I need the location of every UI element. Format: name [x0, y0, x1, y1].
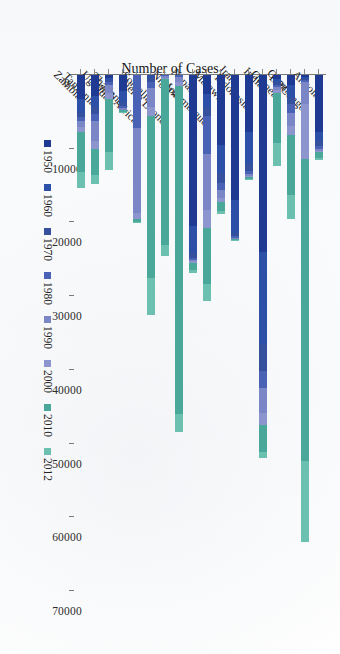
- bar-stack: [161, 75, 170, 256]
- x-tick: [69, 590, 74, 591]
- category-tick: [122, 69, 123, 74]
- category-tick: [80, 69, 81, 74]
- legend-label: 1960: [42, 194, 54, 217]
- bar-segment: [77, 99, 86, 112]
- category-tick: [206, 69, 207, 74]
- bar-segment: [315, 132, 324, 141]
- legend-label: 2000: [42, 370, 54, 393]
- x-tick: [69, 516, 74, 517]
- category-tick: [178, 69, 179, 74]
- legend-swatch: [45, 404, 52, 411]
- bar-segment: [287, 195, 296, 219]
- legend-label: 1950: [42, 150, 54, 173]
- bar-segment: [315, 158, 324, 161]
- bar-segment: [259, 425, 268, 452]
- category-tick: [192, 69, 193, 74]
- bar-segment: [105, 152, 114, 170]
- bar-segment: [301, 82, 310, 103]
- legend-item: 2012: [42, 448, 54, 481]
- bar-segment: [287, 75, 296, 85]
- bar-segment: [147, 82, 156, 89]
- bar-stack: [245, 75, 254, 180]
- bar-segment: [245, 179, 254, 180]
- bar-segment: [287, 104, 296, 112]
- category-tick: [94, 69, 95, 74]
- bar-segment: [119, 112, 128, 113]
- bar-segment: [301, 104, 310, 159]
- bar-segment: [217, 211, 226, 215]
- bar-segment: [119, 75, 128, 91]
- x-tick-label: 30000: [52, 310, 82, 322]
- bar-segment: [91, 149, 100, 176]
- bar-segment: [119, 91, 128, 101]
- chart-canvas: Number of Cases 010000200003000040000500…: [0, 0, 340, 654]
- bar-segment: [91, 114, 100, 121]
- bar-segment: [259, 371, 268, 388]
- bar-segment: [203, 210, 212, 228]
- bar-segment: [231, 75, 240, 200]
- category-tick: [248, 69, 249, 74]
- bar-segment: [147, 88, 156, 107]
- bar-segment: [161, 79, 170, 245]
- bar-segment: [189, 263, 198, 270]
- x-tick-label: 20000: [52, 236, 82, 248]
- category-tick: [150, 69, 151, 74]
- bar-segment: [245, 132, 254, 164]
- bar-segment: [259, 413, 268, 426]
- bar-segment: [259, 252, 268, 344]
- category-tick: [262, 69, 263, 74]
- legend-swatch: [45, 272, 52, 279]
- legend-swatch: [45, 228, 52, 235]
- bar-stack: [259, 75, 268, 458]
- bar-segment: [203, 107, 212, 115]
- chart-legend: 19501960197019801990200020102012: [42, 140, 54, 481]
- bar-stack: [91, 75, 100, 184]
- bar-segment: [245, 75, 254, 132]
- bar-segment: [203, 154, 212, 210]
- chart-figure: Number of Cases 010000200003000040000500…: [0, 0, 340, 654]
- legend-item: 1970: [42, 228, 54, 261]
- bar-segment: [161, 245, 170, 256]
- plot-area: 010000200003000040000500006000070000Ango…: [74, 74, 326, 590]
- bar-segment: [147, 278, 156, 315]
- bar-segment: [287, 113, 296, 126]
- bar-segment: [217, 173, 226, 183]
- bar-segment: [189, 75, 198, 226]
- bar-segment: [301, 159, 310, 461]
- category-tick: [276, 69, 277, 74]
- category-tick: [220, 69, 221, 74]
- bar-stack: [175, 75, 184, 432]
- category-tick: [318, 69, 319, 74]
- bar-stack: [77, 75, 86, 188]
- bar-segment: [287, 85, 296, 98]
- x-tick: [69, 221, 74, 222]
- legend-swatch: [45, 140, 52, 147]
- category-tick: [304, 69, 305, 74]
- bar-segment: [259, 344, 268, 371]
- legend-swatch: [45, 316, 52, 323]
- bar-stack: [287, 75, 296, 219]
- bar-segment: [203, 116, 212, 154]
- legend-item: 1950: [42, 140, 54, 173]
- legend-swatch: [45, 360, 52, 367]
- bar-segment: [203, 228, 212, 285]
- bar-segment: [175, 86, 184, 414]
- category-tick: [164, 69, 165, 74]
- bar-segment: [287, 135, 296, 195]
- legend-label: 1970: [42, 238, 54, 261]
- bar-segment: [217, 202, 226, 211]
- bar-segment: [259, 75, 268, 252]
- bar-segment: [189, 270, 198, 273]
- x-tick-label: 40000: [52, 384, 82, 396]
- bar-stack: [217, 75, 226, 214]
- x-tick: [69, 369, 74, 370]
- legend-label: 2010: [42, 414, 54, 437]
- bar-segment: [77, 75, 86, 99]
- bar-segment: [231, 240, 240, 241]
- bar-segment: [91, 121, 100, 140]
- bar-segment: [77, 121, 86, 128]
- bar-stack: [133, 75, 142, 223]
- bar-segment: [217, 75, 226, 145]
- legend-swatch: [45, 448, 52, 455]
- legend-label: 2012: [42, 458, 54, 481]
